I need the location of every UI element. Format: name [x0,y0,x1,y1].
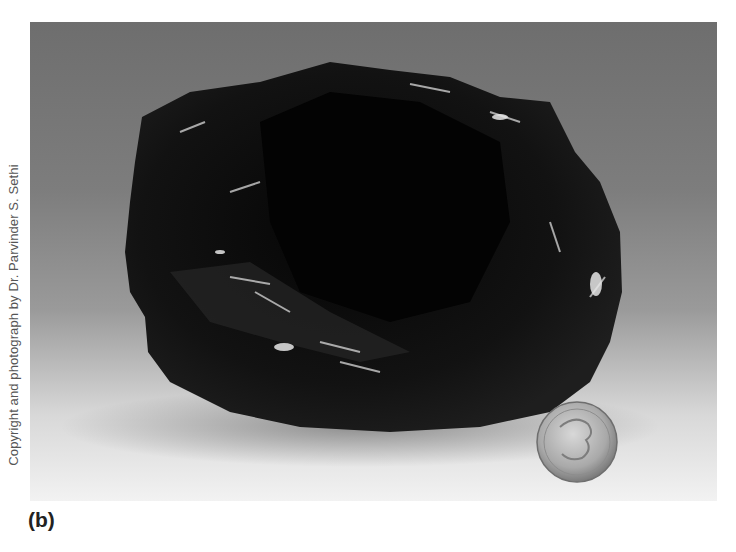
panel-label: (b) [28,508,55,532]
photo-credit-text: Copyright and photograph by Dr. Parvinde… [6,164,21,465]
specimen-photo [30,22,717,501]
photo-credit: Copyright and photograph by Dr. Parvinde… [4,105,22,525]
coin-scale-reference [537,402,617,482]
rock-illustration [30,22,717,501]
